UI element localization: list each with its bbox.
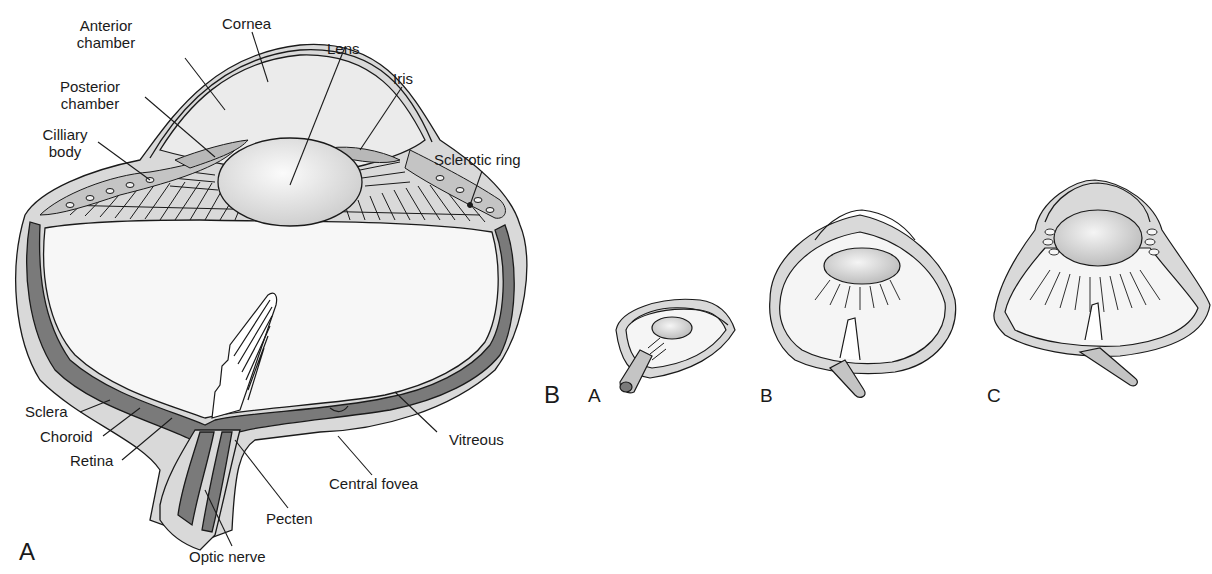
label-text: chamber [58, 34, 154, 51]
eye-variant-tubular [994, 180, 1210, 386]
eye-anatomy-figure: Anterior chamber Cornea Lens Posterior c… [0, 0, 1212, 574]
panel-letter-a: A [19, 538, 35, 566]
eye-variant-globose [770, 210, 956, 397]
label-ciliary-body: Cilliary body [30, 126, 100, 160]
panel-letter-b: B [544, 381, 560, 409]
label-choroid: Choroid [40, 428, 93, 445]
label-central-fovea: Central fovea [329, 475, 418, 492]
main-eye-cross-section [0, 0, 1212, 574]
label-sclerotic-ring: Sclerotic ring [434, 151, 521, 168]
label-text: chamber [42, 95, 138, 112]
label-lens: Lens [327, 40, 360, 57]
variant-letter-c: C [987, 385, 1001, 407]
label-pecten: Pecten [266, 510, 313, 527]
label-text: Anterior [58, 17, 154, 34]
variant-letter-b: B [760, 385, 773, 407]
label-text: Cilliary [30, 126, 100, 143]
label-text: Posterior [42, 78, 138, 95]
label-retina: Retina [70, 452, 113, 469]
lens [218, 138, 362, 226]
label-anterior-chamber: Anterior chamber [58, 17, 154, 51]
label-vitreous: Vitreous [449, 431, 504, 448]
eye-variant-flat [616, 299, 735, 393]
label-text: body [30, 143, 100, 160]
label-posterior-chamber: Posterior chamber [42, 78, 138, 112]
label-sclera: Sclera [25, 403, 68, 420]
label-cornea: Cornea [222, 15, 271, 32]
variant-letter-a: A [588, 385, 601, 407]
label-iris: Iris [393, 70, 413, 87]
label-optic-nerve: Optic nerve [189, 548, 266, 565]
